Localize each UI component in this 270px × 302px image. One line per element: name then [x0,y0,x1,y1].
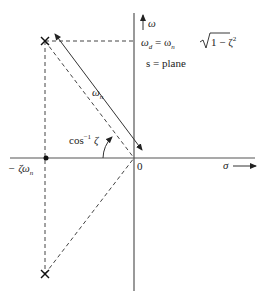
angle-arc [103,137,112,158]
origin-label: 0 [137,160,143,172]
sigma-axis-label: σ [223,159,229,171]
lower-pole-cross-icon [41,270,49,278]
natural-frequency-label: ωn [92,86,104,101]
s-plane-diagram: ω σ 0 ωn ωd = ωn 1 − ζ2 s = plane cos−1 … [0,0,270,302]
real-part-label: − ζωn [8,162,34,177]
damped-frequency-formula: ωd = ωn [141,36,175,51]
real-part-dot-icon [44,156,49,161]
plane-label: s = plane [146,57,186,69]
angle-label: cos−1 ζ [69,133,100,147]
sqrt-body: 1 − ζ2 [211,35,237,49]
omega-axis-label: ω [148,17,156,29]
lower-pole-ray [45,158,134,274]
